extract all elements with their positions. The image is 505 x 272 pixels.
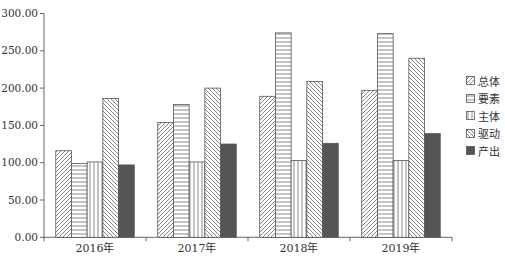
- legend-item: 主体: [466, 107, 500, 125]
- bar: [260, 96, 276, 237]
- bar: [119, 165, 135, 237]
- bar: [291, 160, 307, 237]
- bar: [307, 81, 323, 237]
- legend-label: 产出: [478, 143, 500, 159]
- x-category-label: 2017年: [178, 241, 217, 255]
- y-axis: 0.0050.00100.00150.00200.00250.00300.00: [1, 7, 44, 243]
- bar: [87, 162, 103, 237]
- y-tick-label: 0.00: [15, 231, 38, 243]
- legend-label: 驱动: [478, 125, 500, 141]
- bar: [409, 58, 425, 237]
- bar: [103, 99, 119, 238]
- bar-group: [158, 88, 237, 237]
- bar: [189, 162, 205, 237]
- y-tick-label: 250.00: [1, 44, 38, 56]
- x-category-label: 2016年: [76, 241, 115, 255]
- bar: [205, 88, 221, 237]
- y-tick-label: 100.00: [1, 156, 38, 168]
- legend-swatch-icon: [466, 111, 475, 120]
- y-tick-label: 150.00: [1, 119, 38, 131]
- x-category-label: 2019年: [382, 241, 421, 255]
- legend-swatch-icon: [466, 146, 475, 155]
- bar: [158, 122, 174, 237]
- y-tick-label: 300.00: [1, 7, 38, 19]
- bar-chart: 0.0050.00100.00150.00200.00250.00300.00 …: [0, 0, 505, 272]
- x-axis: 2016年2017年2018年2019年: [44, 237, 452, 255]
- bar: [393, 160, 409, 237]
- bar-group: [362, 34, 441, 238]
- bar-groups: [56, 33, 441, 237]
- y-tick-label: 200.00: [1, 82, 38, 94]
- legend-label: 要素: [478, 90, 500, 106]
- bar: [221, 144, 237, 237]
- bar: [323, 143, 339, 237]
- bar-group: [56, 99, 135, 238]
- legend-label: 主体: [478, 108, 500, 124]
- bar: [362, 90, 378, 237]
- y-tick-label: 50.00: [8, 194, 38, 206]
- legend-item: 驱动: [466, 125, 500, 143]
- bar: [377, 34, 393, 238]
- bar: [71, 163, 87, 237]
- chart-legend: 总体要素主体驱动产出: [466, 72, 500, 160]
- legend-label: 总体: [478, 73, 500, 89]
- legend-swatch-icon: [466, 129, 475, 138]
- bar: [173, 105, 189, 238]
- x-category-label: 2018年: [280, 241, 319, 255]
- legend-item: 总体: [466, 72, 500, 90]
- bar: [56, 151, 72, 238]
- legend-item: 产出: [466, 142, 500, 160]
- legend-item: 要素: [466, 90, 500, 108]
- bar: [275, 33, 291, 237]
- bar-group: [260, 33, 339, 237]
- legend-swatch-icon: [466, 94, 475, 103]
- bar: [425, 134, 441, 238]
- legend-swatch-icon: [466, 76, 475, 85]
